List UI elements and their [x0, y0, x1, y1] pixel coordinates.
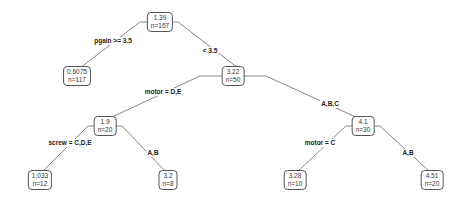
edge-n3-right — [244, 76, 358, 118]
node-value: 3.28 — [288, 172, 303, 180]
split-label: motor = C — [304, 139, 337, 147]
edge-n5-left — [297, 126, 353, 172]
node-count: n=8 — [162, 180, 173, 188]
split-label: < 3.5 — [202, 47, 219, 55]
tree-node-root: 1.39 n=167 — [147, 12, 173, 32]
split-label: screw = C,D,E — [47, 139, 92, 147]
node-value: 1.39 — [151, 14, 169, 22]
tree-node-internal: 4.1 n=30 — [352, 116, 375, 136]
tree-node-internal: 1.9 n=20 — [94, 116, 117, 136]
node-count: n=10 — [288, 180, 303, 188]
node-count: n=167 — [151, 22, 169, 30]
edge-n4-left — [42, 126, 95, 172]
edge-root-left — [80, 22, 148, 68]
tree-node-leaf: 3.2 n=8 — [158, 170, 177, 190]
node-count: n=30 — [356, 126, 371, 134]
node-value: 4.51 — [425, 172, 440, 180]
node-value: 4.1 — [356, 118, 371, 126]
tree-node-leaf: 4.51 n=20 — [421, 170, 444, 190]
node-count: n=117 — [67, 76, 87, 84]
tree-edges — [0, 0, 460, 201]
node-value: 3.2 — [162, 172, 173, 180]
node-value: 3.22 — [226, 68, 241, 76]
node-count: n=12 — [32, 180, 48, 188]
node-value: 1.033 — [32, 172, 48, 180]
split-label: A,B — [401, 149, 414, 157]
split-label: motor = D,E — [144, 88, 183, 96]
node-count: n=20 — [425, 180, 440, 188]
node-value: 1.9 — [98, 118, 113, 126]
split-label: A,B — [146, 149, 159, 157]
split-label: A,B,C — [320, 100, 340, 108]
tree-node-leaf: 1.033 n=12 — [28, 170, 52, 190]
edge-root-right — [172, 22, 238, 68]
tree-node-leaf: 3.28 n=10 — [284, 170, 307, 190]
node-value: 0.6075 — [67, 68, 87, 76]
tree-node-leaf: 0.6075 n=117 — [63, 66, 91, 86]
split-label: pgain >= 3.5 — [93, 37, 133, 45]
tree-node-internal: 3.22 n=50 — [222, 66, 245, 86]
node-count: n=50 — [226, 76, 241, 84]
edge-n3-left — [110, 76, 222, 118]
node-count: n=20 — [98, 126, 113, 134]
